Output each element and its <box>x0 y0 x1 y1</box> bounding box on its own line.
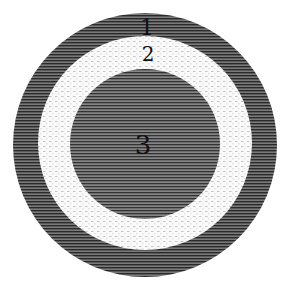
layer-2-label: 2 <box>142 42 155 66</box>
concentric-layers-diagram: 1 2 3 <box>0 0 290 284</box>
layer-3-label: 3 <box>135 130 152 160</box>
layer-1-label: 1 <box>140 15 154 40</box>
